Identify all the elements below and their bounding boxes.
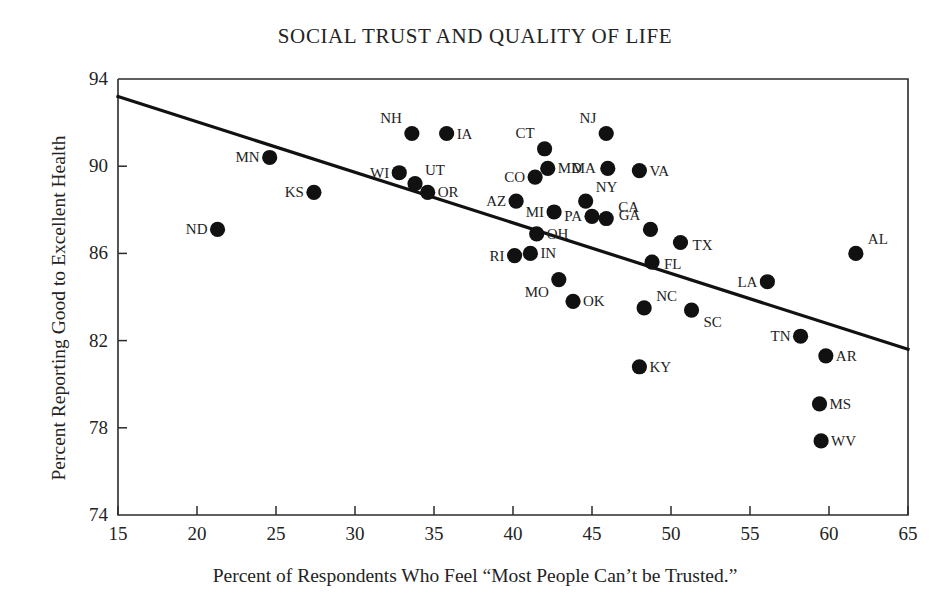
trend-line: [118, 96, 908, 349]
data-point: [814, 433, 829, 448]
x-tick-label: 50: [662, 523, 681, 545]
data-point: [404, 126, 419, 141]
data-point: [578, 193, 593, 208]
data-point: [420, 185, 435, 200]
point-label: MN: [236, 150, 260, 165]
data-point: [523, 246, 538, 261]
point-label: LA: [737, 274, 757, 289]
point-label: MO: [525, 284, 549, 299]
data-point: [644, 255, 659, 270]
data-point: [210, 222, 225, 237]
data-point: [643, 222, 658, 237]
data-point: [584, 209, 599, 224]
x-tick-label: 45: [583, 523, 602, 545]
data-point: [306, 185, 321, 200]
x-tick-label: 65: [899, 523, 918, 545]
data-point: [546, 204, 561, 219]
data-point: [509, 193, 524, 208]
data-point: [684, 302, 699, 317]
point-label: PA: [564, 209, 582, 224]
data-point: [673, 235, 688, 250]
data-point: [632, 359, 647, 374]
data-point: [528, 170, 543, 185]
point-label: MI: [526, 204, 544, 219]
point-label: UT: [425, 162, 445, 177]
point-label: MS: [830, 396, 852, 411]
data-point: [551, 272, 566, 287]
x-tick-label: 25: [267, 523, 286, 545]
point-label: CO: [504, 170, 525, 185]
point-label: KS: [285, 185, 304, 200]
data-point: [599, 211, 614, 226]
x-tick-label: 35: [425, 523, 444, 545]
x-tick-label: 40: [504, 523, 523, 545]
point-label: IN: [540, 246, 556, 261]
point-label: OR: [438, 185, 459, 200]
chart-figure: SOCIAL TRUST AND QUALITY OF LIFE Percent…: [0, 0, 950, 613]
point-label: WI: [370, 165, 389, 180]
data-point: [600, 161, 615, 176]
data-point: [793, 329, 808, 344]
y-tick-label: 82: [68, 330, 108, 352]
point-label: MA: [572, 161, 596, 176]
x-tick-label: 30: [346, 523, 365, 545]
point-label: OH: [547, 226, 569, 241]
data-point: [599, 126, 614, 141]
x-tick-label: 20: [188, 523, 207, 545]
data-point: [637, 300, 652, 315]
axis-frame: [118, 79, 908, 515]
point-label: FL: [664, 257, 682, 272]
data-point: [565, 294, 580, 309]
data-point: [537, 141, 552, 156]
point-label: RI: [490, 248, 505, 263]
point-label: GA: [619, 208, 641, 223]
point-label: WV: [831, 433, 856, 448]
data-point: [812, 396, 827, 411]
point-label: AL: [868, 232, 888, 247]
point-label: CT: [515, 125, 534, 140]
data-point: [848, 246, 863, 261]
data-point: [392, 165, 407, 180]
point-label: VA: [649, 163, 669, 178]
point-label: IA: [457, 126, 473, 141]
point-label: TN: [771, 329, 791, 344]
point-label: NY: [596, 180, 618, 195]
x-tick-label: 15: [109, 523, 128, 545]
y-tick-label: 78: [68, 417, 108, 439]
y-tick-label: 90: [68, 155, 108, 177]
point-label: NJ: [580, 110, 597, 125]
point-label: NH: [380, 110, 402, 125]
data-point: [632, 163, 647, 178]
plot-area: [0, 0, 950, 613]
point-label: AZ: [486, 194, 506, 209]
data-point: [507, 248, 522, 263]
y-tick-label: 86: [68, 242, 108, 264]
x-tick-label: 60: [820, 523, 839, 545]
data-point: [540, 161, 555, 176]
y-tick-label: 94: [68, 68, 108, 90]
point-label: OK: [583, 294, 605, 309]
y-tick-label: 74: [68, 504, 108, 526]
data-point: [439, 126, 454, 141]
point-label: AR: [836, 348, 857, 363]
point-label: SC: [704, 315, 722, 330]
data-point: [529, 226, 544, 241]
data-point: [760, 274, 775, 289]
point-label: KY: [649, 359, 671, 374]
data-point: [262, 150, 277, 165]
point-label: TX: [692, 237, 712, 252]
point-label: NC: [656, 288, 677, 303]
data-point: [818, 348, 833, 363]
point-label: ND: [186, 222, 208, 237]
x-tick-label: 55: [741, 523, 760, 545]
data-point: [407, 176, 422, 191]
